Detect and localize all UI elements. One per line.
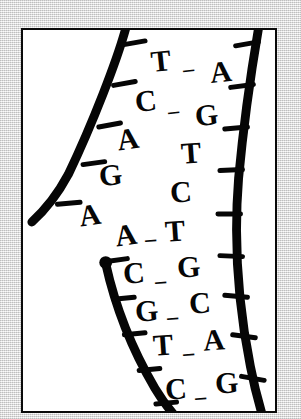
base-pair-bond: – bbox=[182, 57, 195, 80]
base-pair-bond: – bbox=[167, 99, 180, 122]
base-letter-t: T bbox=[149, 45, 172, 77]
base-pair-bond: – bbox=[166, 306, 179, 329]
base-letter-a: A bbox=[77, 199, 103, 232]
base-letter-a: A bbox=[113, 219, 139, 252]
base-letter-g: G bbox=[97, 159, 123, 191]
base-letter-g: G bbox=[214, 367, 239, 399]
illustration-panel: TA–CG–ATGCATA–CG–GC–TA–CG– bbox=[21, 28, 277, 413]
base-letter-g: G bbox=[193, 99, 219, 131]
base-letter-g: G bbox=[134, 295, 159, 327]
base-letter-c: C bbox=[122, 257, 146, 288]
base-letter-t: T bbox=[164, 215, 186, 246]
base-pair-bond: – bbox=[194, 386, 207, 409]
base-pair-bond: – bbox=[182, 342, 195, 365]
base-letter-c: C bbox=[164, 373, 188, 404]
base-letter-a: A bbox=[202, 324, 226, 355]
base-letter-a: A bbox=[115, 123, 141, 156]
base-letter-g: G bbox=[176, 251, 201, 283]
figure-root: TA–CG–ATGCATA–CG–GC–TA–CG– bbox=[0, 0, 301, 419]
base-letter-a: A bbox=[208, 56, 233, 88]
base-letter-c: C bbox=[169, 176, 193, 207]
base-letter-c: C bbox=[133, 85, 158, 117]
base-pair-bond: – bbox=[144, 228, 157, 251]
base-pair-bond: – bbox=[154, 270, 167, 293]
base-letter-t: T bbox=[180, 137, 202, 168]
base-letter-t: T bbox=[152, 329, 174, 360]
base-letter-c: C bbox=[188, 287, 212, 318]
